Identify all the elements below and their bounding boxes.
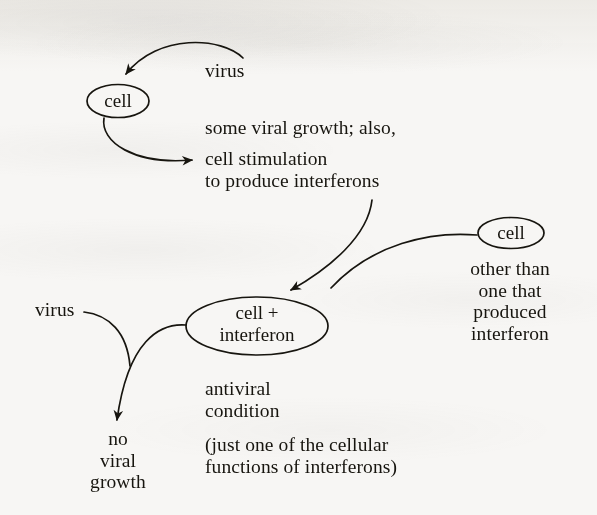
node-cell-top-label: cell [88, 91, 148, 111]
label-parenthetical-functions: (just one of the cellular functions of i… [205, 434, 397, 477]
node-cell-interferon-label-line2: interferon [187, 325, 327, 345]
node-cell-interferon-label-line1: cell + [187, 303, 327, 323]
label-other-than-one-that-produced-interferon: other than one that produced interferon [440, 258, 580, 344]
node-cell-right-label: cell [478, 223, 544, 243]
label-some-viral-growth: some viral growth; also, [205, 117, 396, 139]
label-cell-stimulation: cell stimulation [205, 148, 327, 170]
label-virus-top: virus [205, 60, 245, 82]
diagram-canvas: cell cell cell + interferon virus some v… [0, 0, 597, 515]
label-virus-bottom: virus [35, 299, 75, 321]
edge-interferon-to-cellplus [291, 200, 372, 290]
label-antiviral-condition: antiviral condition [205, 378, 280, 421]
edge-cell-to-stimulation [104, 118, 192, 161]
edge-cellplus-to-nogrowth [117, 325, 186, 420]
edge-virus-bottom-curve [84, 312, 130, 366]
label-to-produce-interferons: to produce interferons [205, 170, 379, 192]
label-no-viral-growth: no viral growth [72, 428, 164, 493]
